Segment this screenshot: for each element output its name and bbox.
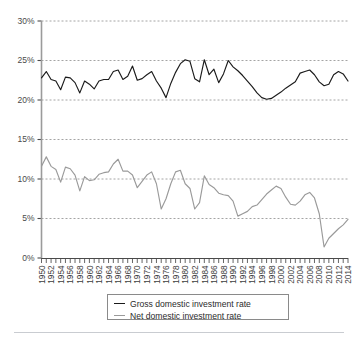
x-axis-tick-label: 1970: [133, 265, 142, 284]
x-axis-tick-label: 1954: [57, 265, 66, 284]
x-axis-tick-label: 2008: [315, 265, 324, 284]
x-axis-tick-label: 1968: [124, 265, 133, 284]
y-axis-tick-label: 15%: [17, 134, 34, 144]
legend-label-net: Net domestic investment rate: [130, 311, 241, 321]
legend-item-net: Net domestic investment rate: [114, 310, 288, 321]
x-axis-label-group: 1950195219541956195819601962196419661968…: [38, 265, 354, 284]
x-axis-tick-label: 1976: [162, 265, 171, 284]
x-axis-tick-label: 1952: [47, 265, 56, 284]
x-axis-tick-label: 2014: [344, 265, 353, 284]
series-line-gross-domestic-investment-rate: [42, 60, 349, 100]
chart-legend: Gross domestic investment rate Net domes…: [107, 294, 289, 320]
x-axis-tick-label: 1978: [172, 265, 181, 284]
x-axis-tick-label: 1964: [105, 265, 114, 284]
x-axis-tick-label: 1980: [181, 265, 190, 284]
legend-item-gross: Gross domestic investment rate: [114, 298, 288, 309]
x-axis-tick-label: 2004: [296, 265, 305, 284]
x-axis-tick-label: 1960: [86, 265, 95, 284]
x-axis-tick-label: 1966: [114, 265, 123, 284]
y-axis-tick-label: 5%: [22, 213, 35, 223]
x-axis-tick-label: 1958: [76, 265, 85, 284]
series-line-net-domestic-investment-rate: [42, 157, 349, 247]
x-axis-tick-label: 1972: [143, 265, 152, 284]
y-axis-tick-label: 25%: [17, 55, 34, 65]
y-axis-tick-label: 30%: [17, 16, 34, 26]
x-axis-tick-label: 1998: [268, 265, 277, 284]
x-axis-tick-label: 1992: [239, 265, 248, 284]
x-axis-tick-label: 2006: [306, 265, 315, 284]
y-axis-tick-label: 10%: [17, 174, 34, 184]
x-axis-tick-label: 1988: [220, 265, 229, 284]
x-axis-tick-label: 2012: [335, 265, 344, 284]
x-axis-tick-label: 2010: [325, 265, 334, 284]
line-chart-plot: 0%5%10%15%20%25%30% 19501952195419561958…: [0, 0, 356, 341]
y-axis-tick-label: 0%: [22, 253, 35, 263]
x-axis-tick-label: 1974: [153, 265, 162, 284]
x-axis-tick-label: 1950: [38, 265, 47, 284]
legend-label-gross: Gross domestic investment rate: [130, 299, 251, 309]
gridline-group: [42, 21, 349, 219]
x-axis-tick-label: 1996: [258, 265, 267, 284]
x-axis-tick-label: 2002: [287, 265, 296, 284]
legend-swatch-gross: [114, 303, 125, 304]
x-axis-tick-label: 1962: [95, 265, 104, 284]
x-axis-tick-label: 1956: [66, 265, 75, 284]
legend-swatch-net: [114, 315, 125, 316]
x-axis-tick-label: 1984: [201, 265, 210, 284]
x-axis-tick-label: 2000: [277, 265, 286, 284]
x-axis-tick-label: 1982: [191, 265, 200, 284]
y-axis-tick-label: 20%: [17, 95, 34, 105]
y-axis-label-group: 0%5%10%15%20%25%30%: [17, 16, 34, 263]
footer-divider: [14, 332, 344, 333]
x-axis-tick-label: 1986: [210, 265, 219, 284]
x-axis-tick-label: 1994: [248, 265, 257, 284]
x-axis-tick-label: 1990: [229, 265, 238, 284]
chart-figure: 0%5%10%15%20%25%30% 19501952195419561958…: [0, 0, 356, 341]
